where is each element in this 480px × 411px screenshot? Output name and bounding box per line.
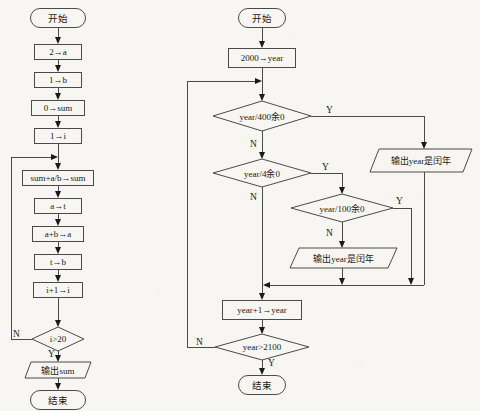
left-update-a-label: a+b→a <box>45 229 72 239</box>
right-cond-100-label: year/100余0 <box>291 194 393 222</box>
left-accumulate-label: sum+a/b→sum <box>30 173 85 183</box>
right-decision-year-gt-2100: year>2100 <box>215 334 309 360</box>
right-decision-year-mod-400: year/400余0 <box>213 101 311 131</box>
right-cond-400-label: year/400余0 <box>213 101 311 131</box>
right-process-increment-year: year+1→year <box>222 300 302 320</box>
right-process-init-year: 2000→year <box>228 48 296 68</box>
left-process-init-i: 1→i <box>34 128 82 144</box>
right-output-leap-2: 输出year是闰年 <box>290 248 397 268</box>
left-branch-no-label: N <box>13 329 20 339</box>
right-branch-yes-end-label: Y <box>268 358 275 368</box>
right-branch-no-100-label: N <box>326 228 333 238</box>
right-cond-end-label: year>2100 <box>215 334 309 360</box>
left-end-label: 结束 <box>48 393 68 407</box>
left-output-sum: 输出sum <box>25 362 91 378</box>
left-process-init-sum: 0→sum <box>31 100 85 116</box>
left-process-init-a: 2→a <box>34 44 82 60</box>
right-decision-year-mod-4: year/4余0 <box>213 159 311 187</box>
left-init-b-label: 1→b <box>49 75 67 85</box>
left-decision-i-gt-20: i>20 <box>32 327 84 351</box>
left-init-sum-label: 0→sum <box>44 103 73 113</box>
right-branch-no-400-label: N <box>250 139 257 149</box>
right-start-label: 开始 <box>252 11 272 25</box>
right-branch-yes-400-label: Y <box>326 105 333 115</box>
left-branch-yes-label: Y <box>48 349 55 359</box>
flowchart-canvas: 开始 2→a 1→b 0→sum 1→i sum+a/b→sum a→t a+b… <box>0 0 480 411</box>
left-output-label: 输出sum <box>25 362 91 378</box>
left-end-terminator: 结束 <box>30 390 86 410</box>
left-process-init-b: 1→b <box>34 72 82 88</box>
left-condition-label: i>20 <box>32 327 84 351</box>
left-update-b-label: t→b <box>50 257 66 267</box>
left-process-save-t: a→t <box>34 198 82 214</box>
left-process-accumulate: sum+a/b→sum <box>22 170 94 186</box>
left-init-i-label: 1→i <box>50 131 66 141</box>
right-branch-yes-100-label: Y <box>396 196 403 206</box>
left-init-a-label: 2→a <box>49 47 67 57</box>
right-branch-no-4-label: N <box>250 192 257 202</box>
left-start-label: 开始 <box>48 11 68 25</box>
left-start-terminator: 开始 <box>30 8 86 28</box>
right-output-leap-2-label: 输出year是闰年 <box>290 248 397 268</box>
right-cond-4-label: year/4余0 <box>213 159 311 187</box>
right-end-label: 结束 <box>252 378 272 392</box>
right-branch-no-end-label: N <box>196 337 203 347</box>
right-start-terminator: 开始 <box>238 8 286 28</box>
left-increment-i-label: i+1→i <box>46 285 70 295</box>
left-process-update-b: t→b <box>34 254 82 270</box>
right-init-year-label: 2000→year <box>241 53 284 63</box>
right-decision-year-mod-100: year/100余0 <box>291 194 393 222</box>
right-end-terminator: 结束 <box>238 375 286 395</box>
left-save-t-label: a→t <box>50 201 66 211</box>
right-branch-yes-4-label: Y <box>322 162 329 172</box>
right-output-leap-1-label: 输出year是闰年 <box>370 149 472 172</box>
left-process-update-a: a+b→a <box>32 226 84 242</box>
right-increment-year-label: year+1→year <box>237 305 287 315</box>
right-output-leap-1: 输出year是闰年 <box>370 149 472 172</box>
left-process-increment-i: i+1→i <box>33 282 83 298</box>
